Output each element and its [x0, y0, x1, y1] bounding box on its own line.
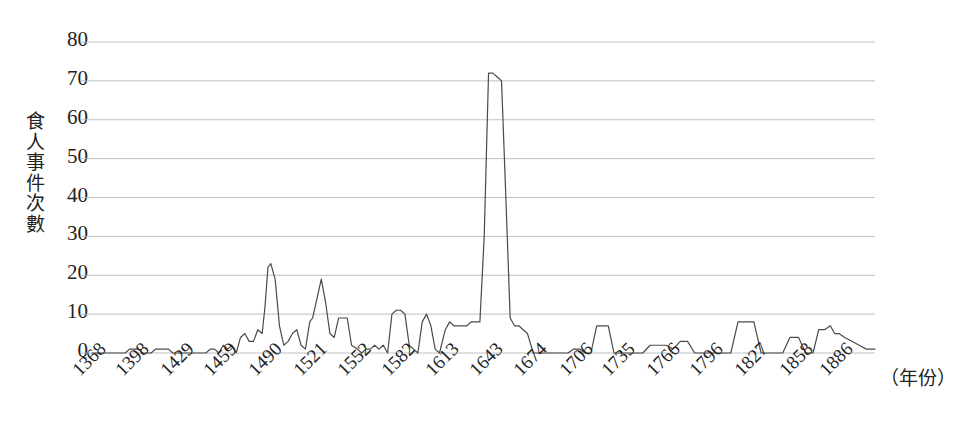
x-axis-tick-label: 1674 [509, 338, 551, 380]
x-axis-tick-label: 1521 [289, 338, 331, 380]
x-axis-tick-label: 1858 [775, 338, 817, 380]
chart-container: 食 人 事 件 次 數 01020304050607080 1368139814… [0, 0, 975, 443]
x-axis-tick-label: 1398 [111, 338, 153, 380]
x-axis-tick-label: 1796 [685, 338, 727, 380]
x-axis-tick-label: 1706 [555, 338, 597, 380]
x-axis-tick-label: 1766 [642, 338, 684, 380]
x-axis-tick-labels: 1368139814291459149015211552158216131643… [0, 0, 975, 443]
x-axis-tick-label: 1827 [730, 338, 772, 380]
x-axis-title: （年份） [880, 363, 956, 390]
x-axis-tick-label: 1368 [68, 338, 110, 380]
x-axis-tick-label: 1490 [244, 338, 286, 380]
x-axis-tick-label: 1735 [597, 338, 639, 380]
x-axis-tick-label: 1643 [465, 338, 507, 380]
x-axis-tick-label: 1582 [377, 338, 419, 380]
x-axis-tick-label: 1459 [199, 338, 241, 380]
x-axis-tick-label: 1886 [815, 338, 857, 380]
x-axis-tick-label: 1429 [156, 338, 198, 380]
x-axis-tick-label: 1552 [333, 338, 375, 380]
x-axis-tick-label: 1613 [421, 338, 463, 380]
